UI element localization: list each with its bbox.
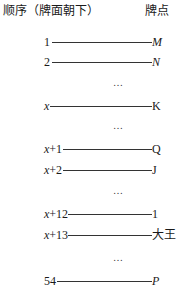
connector-line: [68, 235, 152, 236]
mapping-row: 1 M: [0, 35, 188, 49]
mapping-row: x+12 1: [0, 207, 188, 221]
mapping-row: x+1 Q: [0, 142, 188, 156]
card-value: M: [152, 35, 162, 49]
order-header: 顺序（牌面朝下）: [3, 4, 99, 18]
connector-line: [63, 170, 152, 171]
card-value: J: [152, 163, 157, 177]
ellipsis: …: [113, 253, 124, 263]
mapping-row: 2 N: [0, 55, 188, 69]
mapping-row: 54 P: [0, 274, 188, 288]
connector-line: [57, 281, 152, 282]
ellipsis: …: [113, 121, 124, 131]
card-point-header: 牌点: [145, 4, 169, 18]
order-label: x+12: [44, 207, 68, 221]
connector-line: [52, 62, 152, 63]
connector-line: [52, 42, 152, 43]
mapping-row: x+13 大王: [0, 228, 188, 242]
card-value: Q: [152, 142, 161, 156]
card-value: 大王: [152, 228, 176, 242]
order-label: x+13: [44, 228, 68, 242]
order-label: 2: [44, 55, 50, 69]
order-label: 1: [44, 35, 50, 49]
ellipsis: …: [113, 78, 124, 88]
order-label: x+1: [44, 142, 62, 156]
ellipsis: …: [113, 186, 124, 196]
connector-line: [63, 149, 152, 150]
order-label: x: [44, 99, 49, 113]
order-label: x+2: [44, 163, 62, 177]
mapping-row: x+2 J: [0, 163, 188, 177]
card-value: K: [152, 99, 161, 113]
card-value: 1: [152, 207, 158, 221]
card-value: N: [152, 55, 160, 69]
connector-line: [50, 106, 152, 107]
card-value: P: [152, 274, 159, 288]
mapping-row: x K: [0, 99, 188, 113]
connector-line: [68, 214, 152, 215]
order-label: 54: [44, 274, 56, 288]
